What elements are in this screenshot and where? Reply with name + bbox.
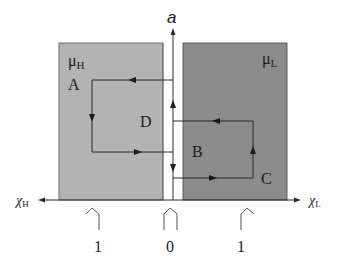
point-c-label: C bbox=[261, 170, 272, 187]
tick-label-center: 0 bbox=[166, 238, 174, 255]
point-a-label: A bbox=[68, 76, 80, 93]
axis-arrow-left-icon bbox=[38, 198, 45, 203]
tick-center bbox=[164, 208, 177, 214]
tick-label-left: 1 bbox=[94, 238, 102, 255]
tick-right bbox=[241, 208, 254, 214]
axis-arrow-up-icon bbox=[171, 28, 176, 35]
tick-label-right: 1 bbox=[237, 238, 245, 255]
arrow-down-icon bbox=[170, 164, 176, 172]
axis-arrow-right-icon bbox=[294, 198, 301, 203]
point-b-label: B bbox=[192, 143, 203, 160]
horizontal-axis-right-label: χL bbox=[307, 193, 321, 209]
horizontal-axis-left-label: χH bbox=[14, 193, 29, 209]
vertical-axis-label: a bbox=[167, 8, 176, 27]
arrow-up-icon bbox=[170, 100, 176, 108]
cycle-diagram: a μH μL A D B C χH χL 1 0 1 bbox=[0, 0, 339, 267]
tick-left bbox=[86, 208, 99, 214]
point-d-label: D bbox=[140, 113, 152, 130]
